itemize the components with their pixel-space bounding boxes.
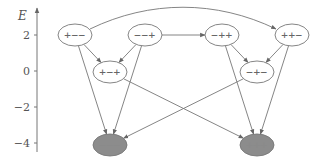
edge-pmm-to-mmm	[78, 46, 106, 134]
edge-mmp-to-pmp	[119, 44, 136, 62]
state-label: +++	[246, 139, 267, 152]
state-node-mmm: −−−	[93, 134, 127, 156]
energy-level-diagram: E 20−2−4 +−−−−++−+−++++−−+−−−−+++	[0, 0, 324, 161]
state-node-mpm: −+−	[240, 61, 274, 83]
edge-ppm-to-ppp	[260, 46, 288, 134]
state-label: −−−	[99, 139, 120, 152]
edge-mmp-to-mmm	[113, 46, 141, 134]
state-label: +−+	[99, 66, 120, 79]
tick-label: 0	[23, 65, 30, 78]
edge-pmm-to-ppm	[90, 7, 276, 29]
state-node-mmp: −−+	[128, 24, 162, 46]
state-node-pmm: +−−	[58, 24, 92, 46]
state-label: ++−	[281, 29, 302, 42]
edge-ppm-to-mpm	[266, 44, 283, 62]
tick-label: −4	[14, 137, 30, 150]
edge-mpp-to-ppp	[225, 46, 253, 134]
state-label: −++	[211, 29, 232, 42]
diagram-svg: E 20−2−4 +−−−−++−+−++++−−+−−−−+++	[0, 0, 324, 161]
state-node-ppp: +++	[240, 134, 274, 156]
tick-label: 2	[23, 29, 30, 42]
state-node-mpp: −++	[205, 24, 239, 46]
tick-label: −2	[14, 101, 30, 114]
axis-label: E	[17, 9, 27, 23]
state-node-ppm: ++−	[275, 24, 309, 46]
state-node-pmp: +−+	[93, 61, 127, 83]
energy-axis: E 20−2−4	[14, 8, 37, 152]
nodes: +−−−−++−+−++++−−+−−−−+++	[58, 24, 309, 156]
state-label: −−+	[134, 29, 155, 42]
edge-mpp-to-mpm	[231, 44, 248, 62]
state-label: +−−	[64, 29, 85, 42]
edge-pmm-to-pmp	[84, 44, 101, 62]
axis-ticks: 20−2−4	[14, 29, 37, 150]
state-label: −+−	[246, 66, 267, 79]
